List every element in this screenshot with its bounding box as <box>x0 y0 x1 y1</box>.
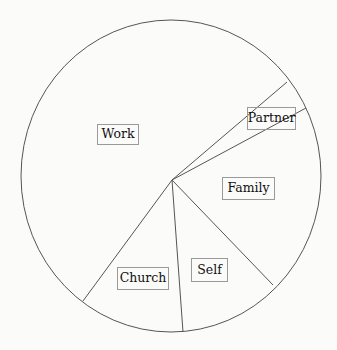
pie-chart-graphic <box>0 0 337 350</box>
pie-chart: Work Partner Family Self Church <box>0 0 337 350</box>
divider-work-partner <box>172 82 287 180</box>
slice-label-work: Work <box>97 124 139 145</box>
slice-label-partner: Partner <box>247 107 296 130</box>
slice-label-self: Self <box>191 258 228 282</box>
slice-label-church: Church <box>117 267 169 290</box>
pie-outline <box>21 20 321 332</box>
slice-label-family: Family <box>222 177 275 200</box>
divider-self-church <box>172 180 183 332</box>
